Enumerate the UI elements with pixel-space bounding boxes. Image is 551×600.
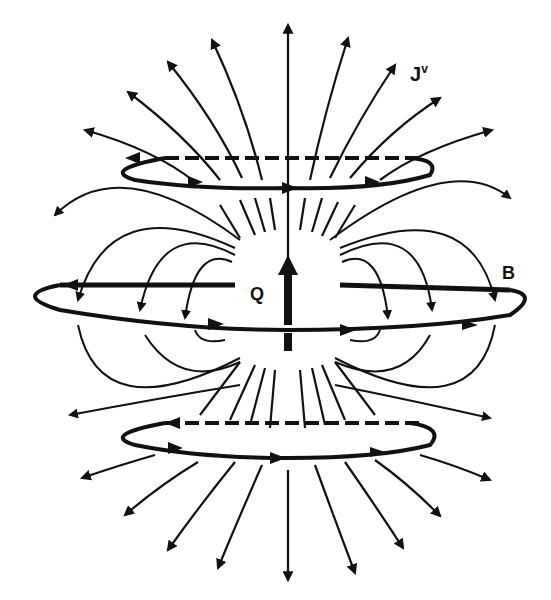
lower-radial-lines (82, 362, 490, 580)
dipole-loops (55, 181, 510, 418)
ring-label: B (502, 263, 515, 284)
charge-arrow (278, 255, 298, 351)
charge-label: Q (250, 284, 264, 305)
upper-radial-lines (85, 25, 492, 280)
current-label: Jv (410, 62, 428, 86)
current-rings (35, 158, 525, 458)
field-diagram: Jv B Q (0, 0, 551, 600)
field-lines-svg (0, 0, 551, 600)
